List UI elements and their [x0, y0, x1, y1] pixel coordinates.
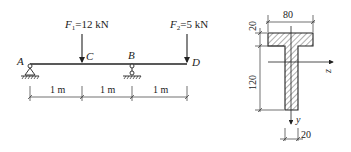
dim-label-20-flange: 20 [247, 21, 258, 31]
t-section-diagram: z y 80 20 120 [247, 9, 333, 141]
dim-label-120: 120 [247, 75, 258, 90]
load-label-f1: F1=12 kN [64, 18, 109, 32]
beam-diagram: F1=12 kN F2=5 kN A C B D 1 m 1 m 1 m [16, 18, 208, 101]
dim-web-width [280, 128, 303, 141]
span-label-cb: 1 m [100, 84, 116, 95]
point-label-b: B [128, 49, 135, 61]
point-label-a: A [16, 55, 24, 67]
point-label-c: C [86, 50, 94, 62]
diagram-canvas: F1=12 kN F2=5 kN A C B D 1 m 1 m 1 m z [0, 0, 351, 152]
dim-label-80: 80 [283, 9, 293, 20]
y-axis-label: y [295, 114, 301, 125]
span-label-bd: 1 m [153, 84, 169, 95]
t-section-shape [268, 33, 313, 110]
point-label-d: D [191, 56, 200, 68]
dim-label-20-web: 20 [301, 129, 311, 140]
z-axis-label: z [322, 69, 333, 74]
roller-support-b-icon [123, 64, 141, 79]
span-label-ac: 1 m [50, 84, 66, 95]
load-label-f2: F2=5 kN [169, 18, 208, 32]
